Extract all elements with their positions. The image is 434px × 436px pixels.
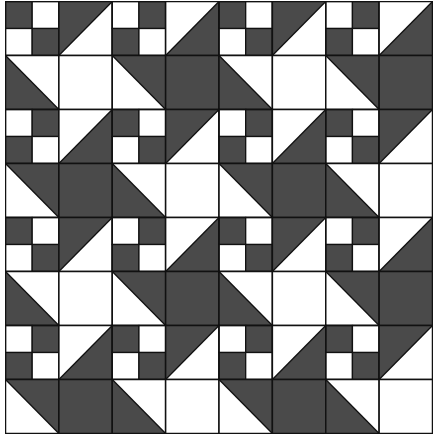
quilt-cell: [112, 218, 165, 272]
quilt-cell: [272, 326, 325, 380]
quilt-cell: [166, 110, 219, 164]
quilt-cell: [112, 164, 165, 218]
quilt-cell: [272, 218, 325, 272]
quilt-cell: [112, 380, 165, 434]
quilt-cell: [219, 218, 272, 272]
quilt-cell: [272, 164, 325, 218]
quilt-cell: [59, 164, 112, 218]
quilt-cell: [379, 2, 432, 56]
quilt-cell: [166, 164, 219, 218]
quilt-cell: [6, 110, 59, 164]
quilt-cell: [112, 326, 165, 380]
quilt-cell: [112, 110, 165, 164]
quilt-cell: [326, 272, 379, 326]
quilt-cell: [6, 164, 59, 218]
quilt-cell: [6, 218, 59, 272]
quilt-cell: [219, 380, 272, 434]
quilt-cell: [379, 272, 432, 326]
quilt-cell: [6, 2, 59, 56]
quilt-cell: [272, 380, 325, 434]
quilt-cell: [59, 326, 112, 380]
quilt-cell: [379, 326, 432, 380]
quilt-cell: [326, 56, 379, 110]
quilt-cell: [166, 218, 219, 272]
quilt-cell: [6, 326, 59, 380]
quilt-cell: [272, 110, 325, 164]
quilt-cell: [326, 164, 379, 218]
quilt-cell: [379, 218, 432, 272]
quilt-cell: [166, 380, 219, 434]
quilt-cell: [59, 56, 112, 110]
quilt-cell: [379, 110, 432, 164]
quilt-cell: [326, 326, 379, 380]
quilt-cell: [219, 326, 272, 380]
quilt-cell: [166, 2, 219, 56]
quilt-cell: [112, 2, 165, 56]
quilt-cell: [6, 272, 59, 326]
quilt-cell: [272, 56, 325, 110]
quilt-cell: [326, 110, 379, 164]
quilt-cell: [219, 164, 272, 218]
quilt-cell: [326, 380, 379, 434]
quilt-cell: [112, 272, 165, 326]
quilt-cell: [59, 218, 112, 272]
quilt-cell: [272, 272, 325, 326]
quilt-cell: [219, 110, 272, 164]
quilt-cell: [379, 380, 432, 434]
quilt-cell: [59, 380, 112, 434]
quilt-cell: [6, 380, 59, 434]
quilt-cell: [219, 272, 272, 326]
quilt-cell: [326, 218, 379, 272]
quilt-cell: [326, 2, 379, 56]
quilt-cell: [379, 164, 432, 218]
quilt-cell: [219, 2, 272, 56]
quilt-cell: [112, 56, 165, 110]
quilt-cell: [59, 110, 112, 164]
quilt-cell: [59, 2, 112, 56]
quilt-pattern: [5, 1, 433, 434]
quilt-cell: [166, 56, 219, 110]
quilt-cell: [59, 272, 112, 326]
quilt-cell: [166, 272, 219, 326]
quilt-cell: [166, 326, 219, 380]
quilt-cell: [6, 56, 59, 110]
quilt-cell: [219, 56, 272, 110]
quilt-cell: [379, 56, 432, 110]
quilt-cell: [272, 2, 325, 56]
